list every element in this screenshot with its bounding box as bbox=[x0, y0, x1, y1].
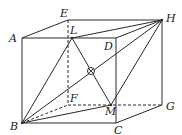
edge-bf bbox=[22, 105, 68, 123]
edge-mh bbox=[111, 20, 162, 105]
vertex-label-c: C bbox=[114, 124, 123, 135]
vertex-label-g: G bbox=[166, 100, 175, 113]
vertex-label-a: A bbox=[8, 32, 17, 45]
vertex-dot-h bbox=[161, 19, 163, 21]
edge-ae bbox=[22, 20, 68, 38]
vertex-label-e: E bbox=[59, 7, 68, 20]
vertex-dot-l bbox=[71, 37, 73, 39]
vertex-label-h: H bbox=[165, 12, 176, 25]
edge-lh bbox=[72, 20, 162, 38]
vertex-label-m: M bbox=[104, 105, 117, 118]
cube-diagram: AEHDBCGFLM bbox=[0, 0, 182, 135]
vertex-label-d: D bbox=[103, 40, 113, 53]
edge-cg bbox=[116, 105, 162, 123]
edge-bm bbox=[22, 105, 111, 123]
vertex-label-l: L bbox=[69, 24, 77, 37]
edge-dh bbox=[116, 20, 162, 38]
vertex-dot-b bbox=[21, 122, 23, 124]
vertex-label-f: F bbox=[69, 92, 78, 105]
edge-bl bbox=[22, 38, 72, 123]
vertex-label-b: B bbox=[9, 120, 18, 133]
